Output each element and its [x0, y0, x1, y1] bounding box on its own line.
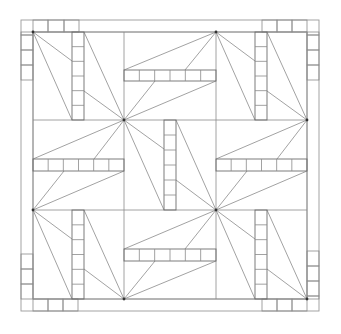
hub-point [306, 298, 309, 301]
hub-point [123, 119, 126, 122]
hub-point [215, 31, 218, 34]
hub-point [32, 31, 35, 34]
hub-point [123, 298, 126, 301]
hub-point [215, 209, 218, 212]
quilt-pattern-diagram [0, 0, 341, 334]
background [0, 0, 341, 334]
hub-point [32, 209, 35, 212]
hub-point [306, 119, 309, 122]
